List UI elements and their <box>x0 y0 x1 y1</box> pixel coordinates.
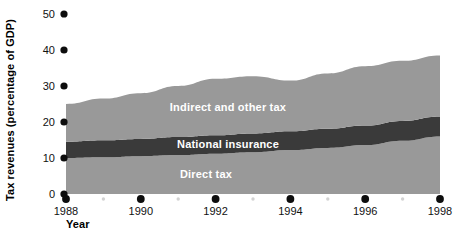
x-tick-dot-major <box>137 195 145 203</box>
y-tick-dot <box>60 46 67 53</box>
y-tick-label: 40 <box>43 44 55 56</box>
x-tick-dot-major <box>212 195 220 203</box>
y-tick-label: 30 <box>43 80 55 92</box>
y-tick-dot <box>60 118 67 125</box>
x-axis-title: Year <box>66 218 90 230</box>
x-tick-dot-major <box>436 195 444 203</box>
y-tick-label: 10 <box>43 152 55 164</box>
x-tick-label: 1992 <box>203 205 227 217</box>
x-tick-dot-minor <box>251 197 254 200</box>
y-tick-label: 20 <box>43 116 55 128</box>
y-tick-dot <box>60 154 67 161</box>
x-tick-label: 1988 <box>54 205 78 217</box>
band-label-national-insurance: National insurance <box>177 138 279 150</box>
stacked-area-chart: 01020304050 198819901992199419961998 Tax… <box>0 0 470 239</box>
x-tick-label: 1994 <box>278 205 302 217</box>
chart-container: 01020304050 198819901992199419961998 Tax… <box>0 0 470 239</box>
x-tick-dot-minor <box>177 197 180 200</box>
y-tick-dot <box>60 10 67 17</box>
x-tick-dot-major <box>62 195 70 203</box>
x-tick-label: 1998 <box>428 205 452 217</box>
x-tick-dot-minor <box>326 197 329 200</box>
y-tick-label: 0 <box>49 188 55 200</box>
y-axis-title: Tax revenues (percentage of GDP) <box>4 19 16 201</box>
x-tick-label: 1996 <box>353 205 377 217</box>
x-tick-dot-major <box>287 195 295 203</box>
x-tick-label: 1990 <box>129 205 153 217</box>
band-label-indirect-and-other-tax: Indirect and other tax <box>170 101 287 113</box>
x-tick-dot-minor <box>102 197 105 200</box>
x-tick-dot-major <box>361 195 369 203</box>
x-tick-dot-minor <box>401 197 404 200</box>
y-tick-label: 50 <box>43 8 55 20</box>
band-label-direct-tax: Direct tax <box>180 168 233 180</box>
y-tick-dot <box>60 82 67 89</box>
